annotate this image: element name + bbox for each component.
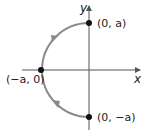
y-axis-label: y	[80, 1, 87, 15]
curve-arrow-upper-icon	[51, 35, 58, 42]
x-axis-label: x	[134, 72, 141, 86]
point-label-0-neg-a: (0, −a)	[97, 111, 136, 124]
point-label-neg-a-0: (−a, 0)	[6, 73, 45, 86]
point-0-a	[86, 20, 92, 26]
point-0-neg-a	[86, 114, 92, 120]
point-label-0-a: (0, a)	[97, 17, 126, 30]
